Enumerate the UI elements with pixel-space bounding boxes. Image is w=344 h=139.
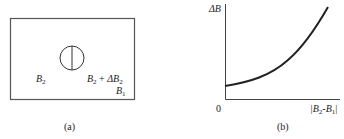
label-b1-sub: 1 [122,90,126,98]
plus-sign: + [99,73,105,84]
label-b1: B1 [116,86,126,96]
origin-label: 0 [216,104,221,114]
x-axis-label: |B2-B1| [310,104,337,114]
label-delta-b: ΔB [107,73,119,84]
y-axis-label: ΔB [209,4,221,14]
x-label-mid: -B [322,103,331,114]
label-b2-plus-delta: B2 + ΔB2 [87,74,123,84]
delta-b-curve [225,7,328,86]
label-b2-sub: 2 [42,78,46,86]
x-label-suffix: | [335,103,337,114]
x-label-prefix: |B [310,103,319,114]
caption-b: (b) [277,122,289,132]
diagram-canvas [0,0,344,139]
label-b2-right-sub: 2 [93,78,97,86]
label-b2-left: B2 [36,74,46,84]
caption-a: (a) [64,122,75,132]
